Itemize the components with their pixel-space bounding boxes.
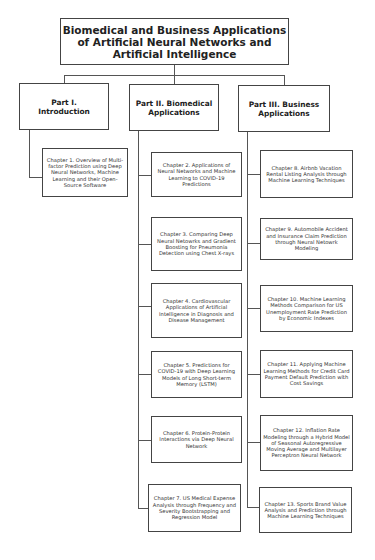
connector-ch5 — [138, 374, 151, 375]
connector-part1-spine — [29, 130, 30, 177]
chapter-13-box: Chapter 13. Sports Brand Value Analysis … — [259, 487, 352, 533]
chapter-6-box: Chapter 6. Protein-Protein Interactions … — [151, 416, 242, 463]
diagram-title-text: Biomedical and Business Applications of … — [61, 24, 288, 60]
chapter-8-text: Chapter 8. Airbnb Vacation Rental Listin… — [263, 165, 350, 184]
chapter-2-text: Chapter 2. Applications of Neural Networ… — [154, 162, 239, 187]
part-3-label: Part III. Business Applications — [239, 100, 329, 118]
part-1-box: Part I. Introduction — [19, 83, 109, 130]
chapter-1-text: Chapter 1. Overview of Multi-factor Pred… — [45, 157, 125, 188]
connector-ch6 — [138, 440, 151, 441]
connector-part3-up — [284, 75, 285, 85]
chapter-9-box: Chapter 9. Automobile Accident and Insur… — [260, 218, 353, 260]
connector-ch4 — [138, 306, 151, 307]
chapter-13-text: Chapter 13. Sports Brand Value Analysis … — [262, 501, 349, 520]
connector-title-down — [174, 65, 175, 75]
part-2-label: Part II. Biomedical Applications — [130, 99, 218, 117]
chapter-5-text: Chapter 5. Predictions for COVID-19 with… — [154, 362, 239, 387]
chapter-12-box: Chapter 12. Inflation Rate Modeling thro… — [260, 415, 353, 471]
connector-ch11 — [247, 374, 260, 375]
chapter-3-box: Chapter 3. Comparing Deep Neural Netowrk… — [151, 217, 242, 271]
chapter-7-box: Chapter 7. US Medical Expense Analysis t… — [148, 484, 241, 532]
connector-ch2 — [138, 175, 151, 176]
connector-part1-up — [64, 75, 65, 83]
connector-ch1 — [29, 177, 42, 178]
connector-ch9 — [247, 243, 260, 244]
chapter-10-box: Chapter 10. Machine Learning Methods Com… — [260, 285, 353, 332]
chapter-10-text: Chapter 10. Machine Learning Methods Com… — [263, 296, 350, 321]
part-3-box: Part III. Business Applications — [238, 85, 330, 132]
chapter-4-text: Chapter 4. Cardiovascular Applications o… — [154, 298, 239, 323]
chapter-11-box: Chapter 11. Applying Machine Learning Me… — [260, 350, 353, 398]
chapter-3-text: Chapter 3. Comparing Deep Neural Netowrk… — [154, 231, 239, 256]
chapter-6-text: Chapter 6. Protein-Protein Interactions … — [154, 430, 239, 449]
connector-ch3 — [138, 244, 151, 245]
connector-ch7 — [138, 508, 148, 509]
diagram-title: Biomedical and Business Applications of … — [60, 18, 289, 65]
chapter-7-text: Chapter 7. US Medical Expense Analysis t… — [151, 495, 238, 520]
chapter-9-text: Chapter 9. Automobile Accident and Insur… — [263, 226, 350, 251]
chapter-1-box: Chapter 1. Overview of Multi-factor Pred… — [42, 148, 128, 197]
connector-part2-up — [174, 75, 175, 84]
chapter-8-box: Chapter 8. Airbnb Vacation Rental Listin… — [260, 150, 353, 198]
chapter-2-box: Chapter 2. Applications of Neural Networ… — [151, 152, 242, 197]
connector-part3-spine — [247, 132, 248, 507]
connector-ch13 — [247, 507, 259, 508]
part-2-box: Part II. Biomedical Applications — [129, 84, 219, 131]
connector-ch8 — [247, 174, 260, 175]
chapter-4-box: Chapter 4. Cardiovascular Applications o… — [151, 283, 242, 338]
part-1-label: Part I. Introduction — [20, 98, 108, 116]
connector-part2-spine — [138, 131, 139, 509]
connector-ch12 — [247, 442, 260, 443]
connector-ch10 — [247, 308, 260, 309]
chapter-12-text: Chapter 12. Inflation Rate Modeling thro… — [263, 427, 350, 458]
chapter-5-box: Chapter 5. Predictions for COVID-19 with… — [151, 351, 242, 398]
chapter-11-text: Chapter 11. Applying Machine Learning Me… — [263, 361, 350, 386]
